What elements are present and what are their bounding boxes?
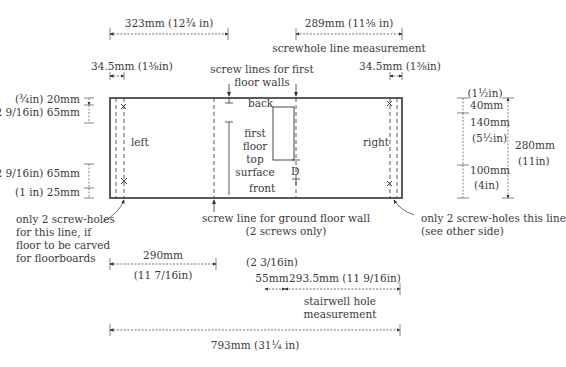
first-floor-top-surface-label: first floor top surface	[235, 127, 274, 180]
dim-right-40-in: (1½in)	[467, 88, 502, 100]
dim-right-40-mm: 40mm	[470, 100, 503, 112]
dim-left-65b: (2 9/16in) 65mm	[0, 168, 80, 180]
dim-290-in: (11 7/16in)	[134, 270, 193, 282]
dim-right-140-mm: 140mm	[470, 117, 510, 129]
right-label: right	[363, 137, 389, 149]
dim-right-280-mm: 280mm	[515, 140, 555, 152]
dim-right-inset: 34.5mm (1⅜in)	[359, 61, 441, 73]
back-label: back	[248, 98, 273, 110]
dim-290-mm: 290mm	[143, 250, 183, 262]
dim-55-mm: 55mm	[255, 273, 288, 285]
dim-right-100-in: (4in)	[474, 180, 499, 192]
right-note: only 2 screw-holes this line (see other …	[421, 212, 566, 238]
left-label: left	[131, 137, 149, 149]
screw-lines-first-floor-label: screw lines for first floor walls	[210, 63, 313, 89]
dim-293: 293.5mm (11 9/16in)	[289, 273, 401, 285]
left-note: only 2 screw-holes for this line, if flo…	[16, 213, 115, 266]
dim-left-25: (1 in) 25mm	[15, 187, 80, 199]
dim-55-in: (2 3/16in)	[246, 257, 298, 269]
ground-floor-screw-line-label: screw line for ground floor wall (2 scre…	[202, 212, 370, 238]
front-label: front	[249, 183, 275, 195]
dim-793: 793mm (31¼ in)	[211, 340, 299, 352]
stairwell-caption: stairwell hole measurement	[304, 295, 377, 321]
dim-right-280-in: (11in)	[518, 156, 550, 168]
dim-289: 289mm (11⅜ in)	[305, 18, 393, 30]
stairwell-hole	[273, 107, 294, 160]
dim-left-20: (¾in) 20mm	[15, 94, 80, 106]
dim-left-inset: 34.5mm (1⅜in)	[91, 61, 173, 73]
dim-right-100-mm: 100mm	[470, 165, 510, 177]
D-label: D	[291, 166, 299, 178]
dim-right-140-in: (5½in)	[472, 133, 507, 145]
screwhole-caption: screwhole line measurement	[272, 43, 425, 55]
dim-323: 323mm (12¾ in)	[125, 18, 213, 30]
dim-left-65a: (2 9/16in) 65mm	[0, 107, 80, 119]
